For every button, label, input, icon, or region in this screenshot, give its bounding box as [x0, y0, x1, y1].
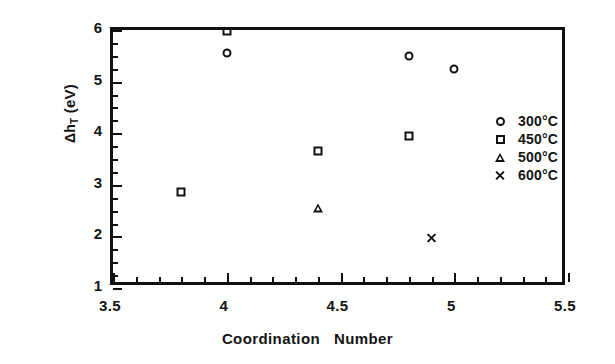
data-point — [313, 204, 323, 213]
y-tick-label: 2 — [82, 225, 102, 242]
y-axis-title: ΔhT (eV) — [61, 59, 78, 169]
triangle-marker-icon — [495, 153, 505, 162]
square-marker-icon — [222, 30, 231, 36]
legend-marker-slot — [492, 117, 508, 126]
square-marker-icon — [496, 135, 505, 144]
x-tick-label: 5 — [447, 297, 456, 314]
legend-item: 600°C — [492, 166, 610, 184]
x-tick-label: 3.5 — [99, 297, 121, 314]
x-axis-title-word2: Number — [334, 330, 393, 347]
y-tick-label: 6 — [82, 19, 102, 36]
triangle-marker-icon — [313, 204, 323, 213]
square-marker-icon — [177, 187, 186, 196]
data-point — [177, 187, 186, 196]
data-point — [313, 147, 322, 156]
circle-marker-icon — [404, 51, 413, 60]
legend-item-label: 300°C — [518, 113, 558, 129]
legend-item-label: 600°C — [518, 167, 558, 183]
chart-legend: 300°C450°C500°C600°C — [492, 112, 610, 184]
legend-item-label: 450°C — [518, 131, 558, 147]
legend-item: 500°C — [492, 148, 610, 166]
scatter-chart-figure: 3.544.555.5 123456 CoordinationNumber Δh… — [0, 0, 615, 364]
y-tick-label: 4 — [82, 122, 102, 139]
legend-item: 450°C — [492, 130, 610, 148]
legend-item: 300°C — [492, 112, 610, 130]
y-tick-label: 3 — [82, 173, 102, 190]
x-axis-title: CoordinationNumber — [0, 330, 615, 347]
y-axis-major-tick — [113, 288, 122, 290]
y-tick-label: 1 — [82, 277, 102, 294]
square-marker-icon — [404, 131, 413, 140]
y-axis-title-subscript: T — [69, 118, 80, 124]
legend-item-label: 500°C — [518, 149, 558, 165]
y-tick-label: 5 — [82, 70, 102, 87]
cross-marker-icon — [426, 232, 437, 243]
cross-marker-icon — [495, 170, 506, 181]
square-marker-icon — [313, 147, 322, 156]
data-point — [426, 232, 437, 243]
data-point — [404, 51, 413, 60]
data-point — [222, 30, 231, 36]
legend-marker-slot — [492, 153, 508, 162]
legend-marker-slot — [492, 170, 508, 181]
y-axis-title-unit: (eV) — [61, 84, 78, 113]
circle-marker-icon — [496, 117, 505, 126]
legend-marker-slot — [492, 135, 508, 144]
y-axis-title-symbol: Δh — [62, 124, 78, 143]
x-tick-label: 4.5 — [327, 297, 349, 314]
x-tick-label: 5.5 — [554, 297, 576, 314]
circle-marker-icon — [222, 49, 231, 58]
data-point — [450, 64, 459, 73]
data-point — [222, 49, 231, 58]
circle-marker-icon — [450, 64, 459, 73]
x-tick-label: 4 — [219, 297, 228, 314]
data-point — [404, 131, 413, 140]
x-axis-major-tick — [568, 273, 570, 282]
x-axis-title-word1: Coordination — [222, 330, 320, 347]
